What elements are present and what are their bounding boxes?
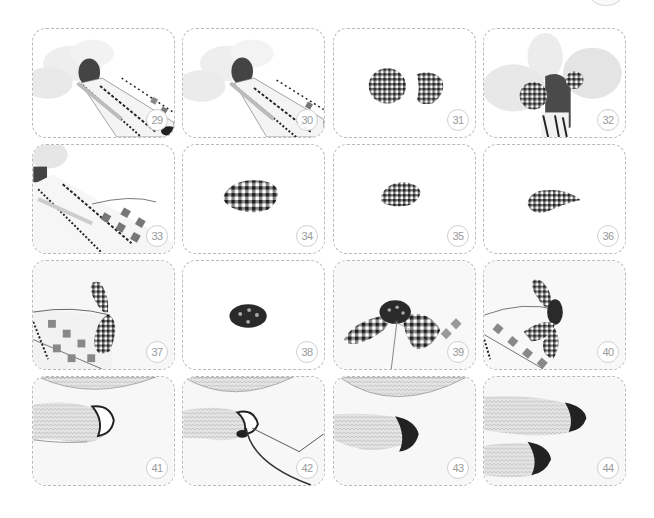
step-number-badge: 29 — [146, 109, 168, 131]
step-number-badge: 31 — [447, 109, 469, 131]
step-number-badge: 35 — [447, 225, 469, 247]
step-number-badge: 36 — [597, 225, 619, 247]
step-number-badge: 39 — [447, 341, 469, 363]
step-number-badge: 30 — [296, 109, 318, 131]
step-number-badge: 38 — [296, 341, 318, 363]
step-panel-44: 44 — [483, 376, 626, 486]
step-panel-43: 43 — [333, 376, 476, 486]
step-panel-34: 34 — [182, 144, 325, 254]
step-number-badge: 37 — [146, 341, 168, 363]
step-panel-40: 40 — [483, 260, 626, 370]
step-panel-42: 42 — [182, 376, 325, 486]
step-number-badge: 40 — [597, 341, 619, 363]
step-panel-29: 29 — [32, 28, 175, 138]
step-panel-32: 32 — [483, 28, 626, 138]
step-panel-41: 41 — [32, 376, 175, 486]
step-panel-35: 35 — [333, 144, 476, 254]
step-number-badge: 43 — [447, 457, 469, 479]
step-number-badge: 32 — [597, 109, 619, 131]
step-number-badge: 44 — [597, 457, 619, 479]
step-number-badge: 34 — [296, 225, 318, 247]
edge-image-fragment — [640, 300, 654, 360]
step-panel-37: 37 — [32, 260, 175, 370]
step-photo-grid: 29 30 — [32, 28, 626, 456]
step-panel-39: 39 — [333, 260, 476, 370]
step-panel-33: 33 — [32, 144, 175, 254]
step-panel-38: 38 — [182, 260, 325, 370]
page-corner-badge — [590, 0, 622, 6]
step-number-badge: 33 — [146, 225, 168, 247]
step-panel-31: 31 — [333, 28, 476, 138]
step-number-badge: 41 — [146, 457, 168, 479]
step-panel-30: 30 — [182, 28, 325, 138]
step-panel-36: 36 — [483, 144, 626, 254]
step-number-badge: 42 — [296, 457, 318, 479]
